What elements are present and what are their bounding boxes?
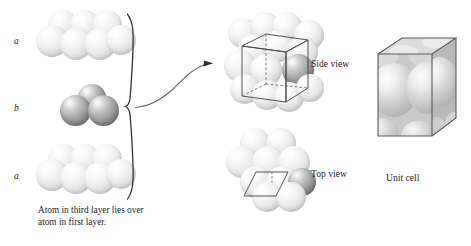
curved-arrow-icon xyxy=(136,60,214,107)
figure-canvas: a b a Atom in third layer lies over atom… xyxy=(0,0,471,246)
unit-cell-group xyxy=(374,28,460,146)
curly-brace-icon xyxy=(126,14,134,199)
unit-cell-cube xyxy=(374,28,460,146)
side-view-label: Side view xyxy=(311,58,349,69)
top-view-label: Top view xyxy=(311,168,347,179)
unit-cell-label: Unit cell xyxy=(386,172,419,183)
